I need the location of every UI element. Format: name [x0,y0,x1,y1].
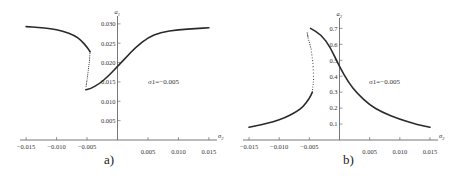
panel-label-a: a) [104,152,114,168]
x-tick-label: −0.015 [17,143,35,150]
x-tick-label: 0.005 [141,148,156,155]
sigma1-annotation: σ1=−0.005 [148,78,179,86]
curve-stable-upper-branch [26,27,90,52]
x-tick-label: 0.010 [171,148,186,155]
y-tick-label: 0.030 [101,20,116,27]
y-tick-label: 0.4 [329,73,338,80]
curve-stable-lower-branch [249,92,312,127]
x-tick-label: −0.015 [240,143,258,150]
x-tick-label: 0.015 [202,148,217,155]
y-tick-label: 0.015 [101,78,116,85]
y-axis-label: a2 [337,10,343,19]
x-tick-label: 0.010 [393,148,408,155]
x-tick-label: −0.010 [47,143,65,150]
sigma1-annotation: σ1=−0.005 [369,78,400,86]
y-tick-label: 0.025 [101,40,116,47]
chart-a-plot: −0.015−0.010−0.0050.0050.0100.0150.0050.… [0,0,231,180]
x-tick-label: 0.015 [423,148,438,155]
y-tick-label: 0.010 [101,98,116,105]
y-tick-label: 0.020 [101,59,116,66]
x-tick-label: −0.005 [78,143,96,150]
y-tick-label: 0.1 [329,120,337,127]
chart-panel-b: −0.015−0.010−0.0050.0050.0100.0150.10.20… [231,0,462,180]
x-tick-label: −0.010 [270,143,288,150]
y-tick-label: 0.6 [329,41,338,48]
x-tick-label: −0.005 [300,143,318,150]
chart-panel-a: −0.015−0.010−0.0050.0050.0100.0150.0050.… [0,0,231,180]
y-tick-label: 0.2 [329,104,337,111]
y-tick-label: 0.7 [329,25,338,32]
y-axis-label: a1 [115,8,121,17]
panel-label-b: b) [343,152,354,168]
x-axis-label: σ2 [218,132,224,141]
y-tick-label: 0.3 [329,88,337,95]
y-tick-label: 0.005 [101,117,116,124]
x-tick-label: 0.005 [362,148,377,155]
x-axis-label: σ2 [439,132,445,141]
